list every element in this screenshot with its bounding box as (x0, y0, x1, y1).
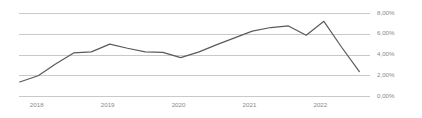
x-tick-label-3: 2021 (243, 101, 257, 108)
line-chart: 0,00%2,00%4,00%6,00%8,00% 20182019202020… (0, 0, 422, 118)
y-tick-label-4: 8,00% (377, 9, 395, 16)
y-axis-tick-labels: 0,00%2,00%4,00%6,00%8,00% (377, 9, 395, 99)
y-tick-label-3: 6,00% (377, 29, 395, 36)
x-tick-label-1: 2019 (101, 101, 115, 108)
series-group (20, 21, 360, 82)
y-tick-label-0: 0,00% (377, 92, 395, 99)
x-tick-label-2: 2020 (172, 101, 186, 108)
x-tick-label-0: 2018 (30, 101, 44, 108)
x-axis-tick-labels: 20182019202020212022 (30, 101, 328, 108)
y-tick-label-1: 2,00% (377, 71, 395, 78)
x-tick-label-4: 2022 (313, 101, 327, 108)
series-line-0 (20, 21, 360, 82)
chart-canvas: 0,00%2,00%4,00%6,00%8,00% 20182019202020… (0, 0, 422, 118)
y-tick-label-2: 4,00% (377, 50, 395, 57)
